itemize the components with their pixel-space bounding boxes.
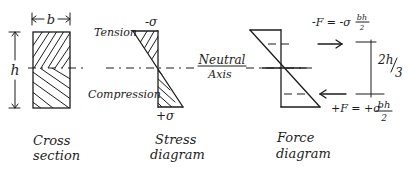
compression-force-arrow bbox=[320, 90, 346, 98]
tension-force-frac-den: 2 bbox=[359, 24, 365, 32]
stress-top-label: -σ bbox=[145, 15, 158, 29]
tension-force-label: -F = -σ bh 2 bbox=[312, 13, 369, 32]
lever-arm-num: 2h bbox=[377, 53, 393, 67]
force-diagram: 2h 3 -F = -σ bh 2 +F = +σ bh 2 Force dia… bbox=[250, 13, 403, 161]
stress-caption-1: Stress bbox=[155, 132, 197, 147]
force-caption-2: diagram bbox=[276, 146, 331, 161]
height-label: h bbox=[10, 62, 19, 78]
stress-diagram: Tension Compression -σ +σ Stress diagram bbox=[88, 15, 205, 162]
compression-force-frac-den: 2 bbox=[380, 113, 387, 123]
stress-bottom-label: +σ bbox=[156, 109, 175, 123]
compression-hatch bbox=[30, 68, 72, 112]
force-caption-1: Force bbox=[276, 130, 315, 145]
neutral-axis-label-2: Axis bbox=[207, 68, 232, 81]
tension-force-text: -F = -σ bbox=[312, 16, 351, 29]
cross-section-caption-1: Cross bbox=[33, 133, 71, 148]
neutral-axis-label-1: Neutral bbox=[198, 53, 246, 67]
compression-label: Compression bbox=[88, 88, 161, 101]
lever-arm-den: 3 bbox=[395, 66, 403, 80]
cross-section: b h Cro bbox=[9, 12, 80, 163]
height-dimension: h bbox=[9, 32, 20, 108]
width-label: b bbox=[47, 12, 55, 27]
tension-force-arrow bbox=[318, 40, 342, 48]
compression-force-text: +F = +σ bbox=[331, 102, 381, 115]
compression-force-frac-num: bh bbox=[378, 99, 391, 110]
compression-force-label: +F = +σ bh 2 bbox=[331, 99, 392, 123]
stress-caption-2: diagram bbox=[150, 147, 205, 162]
lever-arm-dimension: 2h 3 bbox=[356, 40, 403, 97]
tension-label: Tension bbox=[94, 26, 137, 39]
neutral-axis-label: Neutral Axis bbox=[198, 53, 246, 81]
tension-force-frac-num: bh bbox=[357, 13, 367, 22]
cross-section-caption-2: section bbox=[33, 148, 80, 163]
width-dimension: b bbox=[32, 12, 70, 27]
beam-bending-diagram: b h Cro bbox=[0, 0, 408, 182]
tension-hatch bbox=[30, 28, 80, 68]
